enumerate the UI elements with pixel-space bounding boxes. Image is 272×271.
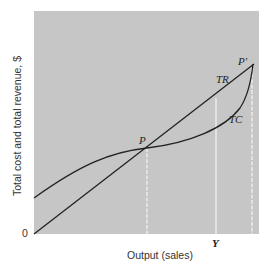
label-tc: TC: [229, 113, 242, 125]
x-axis-label: Output (sales): [110, 249, 210, 261]
chart-canvas: [0, 0, 272, 271]
y-axis-label: Total cost and total revenue, $: [11, 36, 23, 216]
label-p: P: [139, 134, 146, 146]
label-y: Y: [212, 237, 219, 249]
label-tr: TR: [216, 73, 229, 85]
label-p-prime: P': [238, 55, 247, 67]
break-even-chart: Total cost and total revenue, $ Output (…: [0, 0, 272, 271]
origin-label: 0: [22, 227, 28, 239]
